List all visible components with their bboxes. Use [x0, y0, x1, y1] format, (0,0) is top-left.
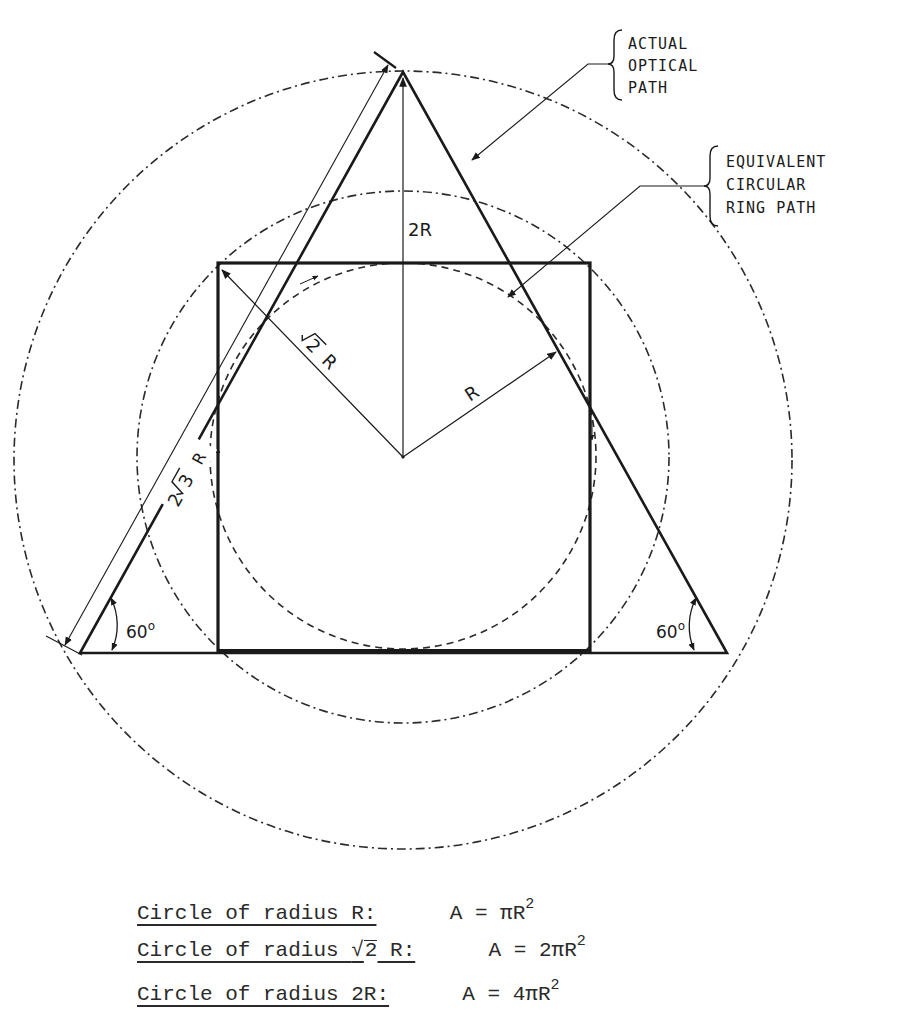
equation-formula: A = 2πR2 [489, 939, 586, 962]
equation-formula: A = πR2 [450, 902, 535, 925]
angle-label-right: 60o [656, 619, 685, 642]
angle-label-left: 60o [126, 619, 155, 642]
leader-actual-path [472, 64, 610, 160]
optical-path-diagram: ACTUAL OPTICAL PATH EQUIVALENT CIRCULAR … [0, 0, 900, 880]
equation-label: Circle of radius R: [137, 902, 376, 925]
label-r: R [461, 381, 483, 405]
dimension-2sqrt3r-line [65, 65, 388, 645]
brace-ring [704, 146, 718, 226]
equation-label: Circle of radius 2R: [137, 983, 389, 1006]
equation-row-2r: Circle of radius 2R: A = 4πR2 [137, 983, 560, 1006]
callout-equivalent-ring-path: EQUIVALENT CIRCULAR RING PATH [726, 153, 836, 217]
equation-row-sqrt2r: Circle of radius √2 R: A = 2πR2 [137, 939, 586, 962]
label-2sqrt3-r: 2 3 R [160, 438, 217, 514]
radius-r-line [403, 352, 556, 457]
label-sqrt2-r: 2 R [295, 327, 341, 373]
angle-arc-right [689, 598, 696, 650]
leader-ring-path [508, 186, 708, 297]
svg-text:2: 2 [302, 334, 325, 357]
equation-formula: A = 4πR2 [462, 983, 559, 1006]
callout-actual-optical-path: ACTUAL OPTICAL PATH [628, 35, 708, 97]
svg-text:R: R [318, 350, 342, 374]
label-2r: 2R [408, 219, 432, 240]
brace-actual [608, 30, 622, 100]
angle-arc-left [111, 598, 117, 650]
radius-sqrt2r-line [222, 270, 403, 457]
equation-label: Circle of radius √2 R: [137, 939, 415, 962]
center-point [401, 455, 404, 458]
equation-row-r: Circle of radius R: A = πR2 [137, 902, 534, 925]
